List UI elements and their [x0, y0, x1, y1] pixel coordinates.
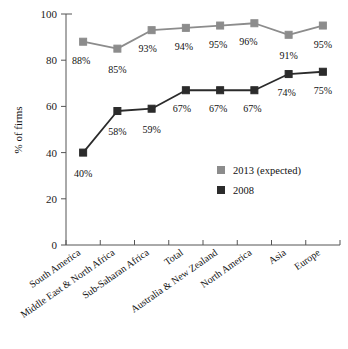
y-tick-label: 100: [41, 8, 58, 20]
data-point-marker: [80, 149, 87, 156]
data-point-marker: [114, 108, 121, 115]
data-point-label: 96%: [239, 36, 257, 47]
data-point-marker: [251, 87, 258, 94]
legend-label: 2008: [233, 185, 254, 196]
data-point-label: 67%: [209, 103, 227, 114]
y-axis-title: % of firms: [12, 106, 24, 153]
data-point-marker: [319, 68, 326, 75]
data-point-label: 59%: [142, 124, 160, 135]
y-tick-label: 40: [46, 147, 58, 159]
data-point-marker: [182, 24, 189, 31]
data-point-label: 93%: [138, 43, 156, 54]
y-tick-label: 0: [52, 239, 58, 251]
legend-label: 2013 (expected): [233, 165, 301, 177]
data-point-label: 67%: [243, 103, 261, 114]
data-point-label: 74%: [277, 87, 295, 98]
data-point-marker: [114, 45, 121, 52]
line-chart: 020406080100 88%85%93%94%95%96%91%95%40%…: [0, 0, 348, 349]
data-point-label: 58%: [108, 126, 126, 137]
data-point-marker: [285, 31, 292, 38]
data-point-label: 88%: [72, 55, 90, 66]
data-point-marker: [80, 38, 87, 45]
data-point-label: 95%: [314, 39, 332, 50]
data-point-marker: [148, 27, 155, 34]
y-tick-label: 80: [46, 54, 58, 66]
data-point-marker: [217, 87, 224, 94]
data-point-label: 85%: [108, 64, 126, 75]
data-point-marker: [182, 87, 189, 94]
data-point-label: 67%: [173, 103, 191, 114]
chart-canvas: 020406080100 88%85%93%94%95%96%91%95%40%…: [0, 0, 348, 349]
data-point-label: 95%: [209, 39, 227, 50]
data-point-marker: [217, 22, 224, 29]
data-point-label: 75%: [314, 85, 332, 96]
legend-swatch: [217, 186, 225, 194]
data-point-label: 94%: [175, 41, 193, 52]
data-point-label: 40%: [74, 168, 92, 179]
y-tick-label: 20: [46, 193, 58, 205]
data-point-marker: [148, 105, 155, 112]
data-point-marker: [319, 22, 326, 29]
data-point-label: 91%: [279, 50, 297, 61]
data-point-marker: [251, 20, 258, 27]
legend-swatch: [217, 166, 225, 174]
y-tick-label: 60: [46, 100, 58, 112]
data-point-marker: [285, 71, 292, 78]
